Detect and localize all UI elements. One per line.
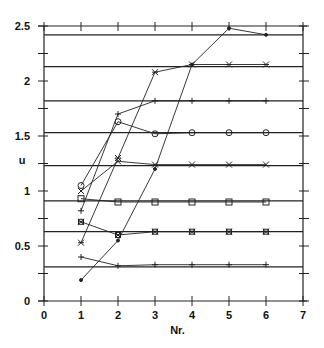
dot-marker <box>228 27 231 30</box>
dot-marker <box>117 239 120 242</box>
y-tick-label: 2.5 <box>15 20 30 32</box>
boxed-asterisk-marker <box>189 229 195 235</box>
plus-marker <box>152 98 158 104</box>
asterisk-marker <box>78 240 84 246</box>
plus-marker <box>115 111 121 117</box>
dot-marker <box>80 279 83 282</box>
series-line-plus-lower <box>81 257 266 266</box>
plus-marker <box>226 98 232 104</box>
y-tick-label: 1 <box>24 185 30 197</box>
plus-marker <box>78 254 84 260</box>
boxed-asterisk-marker <box>78 219 84 225</box>
series-line-diamond <box>81 122 266 186</box>
asterisk-marker <box>152 69 158 75</box>
y-tick-label: 0 <box>24 295 30 307</box>
asterisk-marker <box>115 155 121 161</box>
x-tick-label: 0 <box>41 309 47 321</box>
y-tick-label: 2 <box>24 75 30 87</box>
x-tick-label: 2 <box>115 309 121 321</box>
boxed-asterisk-marker <box>263 229 269 235</box>
boxed-asterisk-marker <box>226 229 232 235</box>
boxed-asterisk-marker <box>152 229 158 235</box>
y-tick-label: 0.5 <box>15 240 30 252</box>
x-tick-label: 4 <box>189 309 196 321</box>
series-line-dot <box>81 28 266 280</box>
line-chart: 0123456700.511.522.5Nr.u <box>0 0 324 348</box>
plus-marker <box>189 98 195 104</box>
dot-marker <box>265 33 268 36</box>
x-axis-label: Nr. <box>170 324 185 336</box>
y-axis-label: u <box>19 154 26 166</box>
x-tick-label: 3 <box>152 309 158 321</box>
x-tick-label: 7 <box>300 309 306 321</box>
plus-marker <box>78 208 84 214</box>
series-line-boxed-asterisk <box>81 222 266 235</box>
x-tick-label: 6 <box>263 309 269 321</box>
x-tick-label: 5 <box>226 309 232 321</box>
plus-marker <box>263 98 269 104</box>
boxed-asterisk-marker <box>115 232 121 238</box>
x-tick-label: 1 <box>78 309 84 321</box>
series-line-asterisk <box>81 65 266 243</box>
y-tick-label: 1.5 <box>15 130 30 142</box>
dot-marker <box>154 168 157 171</box>
plus-marker <box>115 263 121 269</box>
